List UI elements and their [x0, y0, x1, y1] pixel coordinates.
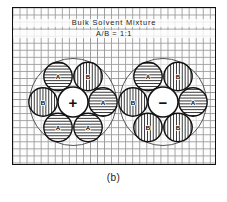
figure-title-block: Bulk Solvent Mixture A/B = 1:1: [13, 19, 215, 38]
solvent-molecule-6: B: [119, 88, 147, 116]
solvent-label: A: [86, 124, 91, 131]
anion-cluster-svg: A B A B: [117, 56, 209, 148]
ion-charge-glyph: +: [69, 94, 78, 111]
solvent-molecule-5: A: [44, 113, 72, 141]
solvent-label: B: [176, 73, 181, 80]
cluster-row: A B A A: [13, 56, 215, 148]
figure-subtitle-ratio: A/B = 1:1: [13, 30, 215, 38]
solvent-molecule-6: B: [29, 88, 57, 116]
figure-solvation-shells: Bulk Solvent Mixture A/B = 1:1: [0, 0, 227, 202]
solvent-molecule-5: B: [134, 113, 162, 141]
solvent-molecule-4: A: [74, 113, 102, 141]
solvent-label: B: [131, 99, 136, 106]
solvent-label: A: [101, 99, 106, 106]
cation-cluster-svg: A B A A: [27, 56, 119, 148]
graph-paper-panel: Bulk Solvent Mixture A/B = 1:1: [12, 7, 216, 165]
solvent-label: A: [56, 73, 61, 80]
solvent-label: A: [56, 124, 61, 131]
solvent-molecule-2: B: [164, 62, 192, 90]
ion-charge-glyph: −: [159, 94, 168, 111]
solvent-label: B: [41, 99, 46, 106]
figure-caption: (b): [0, 172, 227, 183]
solvent-molecule-3: A: [179, 88, 207, 116]
solvent-molecule-4: B: [164, 113, 192, 141]
solvent-label: B: [146, 124, 151, 131]
central-ion: −: [148, 87, 178, 117]
figure-title: Bulk Solvent Mixture: [13, 19, 215, 27]
solvent-molecule-2: B: [74, 62, 102, 90]
solvent-molecule-1: A: [134, 62, 162, 90]
anion-cluster: A B A B: [117, 56, 209, 148]
solvent-label: A: [146, 73, 151, 80]
solvent-label: B: [86, 73, 91, 80]
central-ion: +: [58, 87, 88, 117]
cation-cluster: A B A A: [27, 56, 119, 148]
solvent-label: A: [191, 99, 196, 106]
solvent-label: B: [176, 124, 181, 131]
solvent-molecule-1: A: [44, 62, 72, 90]
solvent-molecule-3: A: [89, 88, 117, 116]
